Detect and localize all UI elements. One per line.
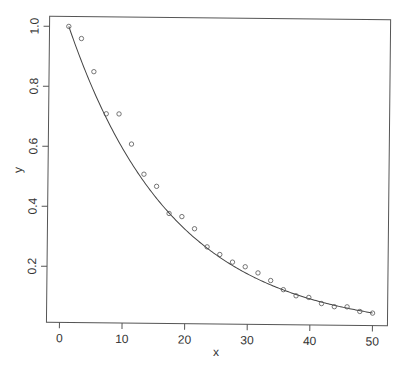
y-tick-label: 0.2 xyxy=(25,257,39,274)
data-points xyxy=(64,24,378,315)
data-point xyxy=(218,252,222,256)
data-point xyxy=(268,278,272,282)
plot-canvas: 01020304050 0.20.40.60.81.0 x y xyxy=(0,0,405,372)
scatter-plot: 01020304050 0.20.40.60.81.0 x y xyxy=(0,0,405,372)
data-point xyxy=(230,260,234,264)
y-axis: 0.20.40.60.81.0 xyxy=(25,17,50,274)
y-tick-label: 0.8 xyxy=(27,77,41,94)
y-axis-label: y xyxy=(11,167,25,173)
x-tick-label: 50 xyxy=(366,335,380,349)
x-tick-label: 20 xyxy=(178,333,192,347)
data-point xyxy=(154,184,158,188)
x-tick-label: 40 xyxy=(303,334,317,348)
data-point xyxy=(180,214,184,218)
data-point xyxy=(142,172,146,176)
data-point xyxy=(243,265,247,269)
data-point xyxy=(256,271,260,275)
data-point xyxy=(129,142,133,146)
x-tick-label: 30 xyxy=(240,333,254,347)
data-point xyxy=(192,227,196,231)
x-tick-label: 10 xyxy=(115,332,129,346)
x-tick-label: 0 xyxy=(56,331,63,345)
y-tick-label: 1.0 xyxy=(27,17,41,34)
x-axis-label: x xyxy=(213,345,219,359)
fitted-curve xyxy=(66,26,376,313)
data-point xyxy=(117,112,121,116)
plot-frame xyxy=(46,16,390,326)
data-point xyxy=(79,36,83,40)
y-tick-label: 0.6 xyxy=(26,137,40,154)
data-point xyxy=(92,69,96,73)
y-tick-label: 0.4 xyxy=(26,197,40,214)
